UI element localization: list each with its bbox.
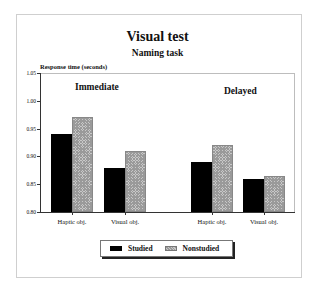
x-tick <box>212 212 213 215</box>
group-label-immediate: Immediate <box>75 82 119 92</box>
bar-immediate-visual-nonstudied <box>125 151 146 212</box>
y-tick-label: 1.00 <box>18 98 36 104</box>
y-tick-label: 0.80 <box>18 209 36 215</box>
x-axis <box>40 212 295 213</box>
x-tick-label: Visual obj. <box>239 218 289 225</box>
bar-delayed-visual-nonstudied <box>264 176 285 212</box>
bar-delayed-visual-studied <box>243 179 264 212</box>
legend-label-nonstudied: Nonstudied <box>183 244 220 253</box>
x-tick <box>72 212 73 215</box>
legend-item-studied: Studied <box>110 244 153 253</box>
legend-label-studied: Studied <box>128 244 153 253</box>
y-axis-label: Response time (seconds) <box>40 63 107 70</box>
legend-item-nonstudied: Nonstudied <box>165 244 220 253</box>
studied-swatch-icon <box>110 246 122 251</box>
chart-subtitle: Naming task <box>0 48 315 58</box>
x-tick <box>264 212 265 215</box>
y-tick <box>37 156 40 157</box>
y-tick-label: 0.85 <box>18 181 36 187</box>
y-tick-label: 0.90 <box>18 153 36 159</box>
nonstudied-swatch-icon <box>165 246 177 251</box>
y-tick-label: 0.95 <box>18 126 36 132</box>
y-tick <box>37 184 40 185</box>
chart-title: Visual test <box>0 29 315 45</box>
y-tick-label: 1.05 <box>18 70 36 76</box>
bar-immediate-haptic-studied <box>51 134 72 212</box>
y-tick <box>37 212 40 213</box>
y-tick <box>37 73 40 74</box>
legend: Studied Nonstudied <box>100 240 233 257</box>
bar-delayed-haptic-nonstudied <box>212 145 233 212</box>
x-tick <box>125 212 126 215</box>
bar-delayed-haptic-studied <box>191 162 212 212</box>
y-axis <box>40 73 41 213</box>
bar-immediate-haptic-nonstudied <box>72 117 93 212</box>
x-tick-label: Haptic obj. <box>47 218 97 225</box>
x-tick-label: Haptic obj. <box>187 218 237 225</box>
y-tick <box>37 101 40 102</box>
group-label-delayed: Delayed <box>224 86 257 96</box>
x-tick-label: Visual obj. <box>100 218 150 225</box>
bar-immediate-visual-studied <box>104 168 125 212</box>
y-tick <box>37 129 40 130</box>
